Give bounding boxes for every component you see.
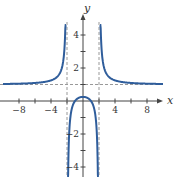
y-tick-label: −4 [66,162,80,172]
y-tick-label: 2 [73,63,79,73]
x-tick-label: −8 [12,105,26,115]
function-graph: −8−44842−2−4xy [0,0,175,177]
x-tick-label: 4 [112,105,118,115]
curve-branch-3 [100,25,163,84]
x-tick-label: 8 [144,105,150,115]
y-tick-label: −2 [66,129,79,139]
x-axis-arrow [157,99,163,104]
tick-labels: −8−44842−2−4xy [12,2,174,172]
y-axis-label: y [83,2,91,15]
y-tick-label: 4 [73,30,79,40]
x-axis-label: x [167,94,174,107]
axes [0,14,163,177]
x-tick-label: −4 [44,105,58,115]
curve-branch-1 [3,25,66,84]
